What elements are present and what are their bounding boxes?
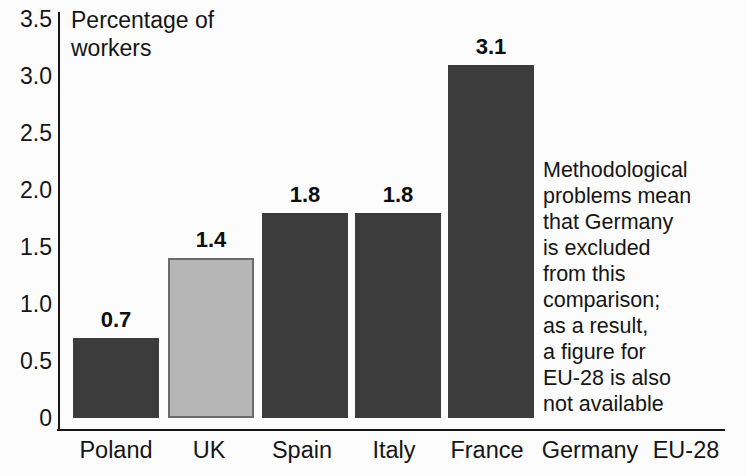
annotation-text: Methodological problems mean that German… xyxy=(543,157,743,417)
x-axis-label-eu-28: EU-28 xyxy=(653,437,720,463)
y-tick-label-3.0: 3.0 xyxy=(0,63,52,89)
bar-france xyxy=(448,65,534,418)
y-tick-label-2.0: 2.0 xyxy=(0,177,52,203)
bar-spain xyxy=(262,213,348,418)
bar-uk xyxy=(168,258,254,418)
bar-value-label-poland: 0.7 xyxy=(73,307,159,333)
x-axis-line xyxy=(57,429,725,431)
x-axis-label-uk: UK xyxy=(193,437,226,463)
bar-chart-figure: Percentage of workers 00.51.01.52.02.53.… xyxy=(0,0,745,476)
bar-value-label-uk: 1.4 xyxy=(168,227,254,253)
bar-italy xyxy=(355,213,441,418)
y-axis-title: Percentage of workers xyxy=(71,6,216,62)
x-axis-label-italy: Italy xyxy=(372,437,415,463)
y-tick-label-0.5: 0.5 xyxy=(0,348,52,374)
y-tick-label-1.5: 1.5 xyxy=(0,234,52,260)
bar-poland xyxy=(73,338,159,418)
x-axis-label-poland: Poland xyxy=(79,437,152,463)
bar-value-label-spain: 1.8 xyxy=(262,182,348,208)
y-axis-line xyxy=(58,12,60,431)
bar-value-label-france: 3.1 xyxy=(448,34,534,60)
y-tick-label-3.5: 3.5 xyxy=(0,6,52,32)
y-tick-label-1.0: 1.0 xyxy=(0,291,52,317)
y-tick-label-0: 0 xyxy=(0,405,52,431)
x-axis-label-germany: Germany xyxy=(542,437,639,463)
y-tick-label-2.5: 2.5 xyxy=(0,120,52,146)
x-axis-label-spain: Spain xyxy=(272,437,332,463)
x-axis-label-france: France xyxy=(450,437,523,463)
bar-value-label-italy: 1.8 xyxy=(355,182,441,208)
